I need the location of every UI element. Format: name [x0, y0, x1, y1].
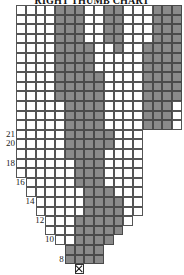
- filled-cell: [75, 53, 85, 63]
- filled-cell: [65, 5, 75, 15]
- filled-cell: [65, 43, 75, 53]
- filled-cell: [162, 72, 172, 82]
- filled-cell: [94, 226, 104, 236]
- empty-cell: [45, 139, 55, 149]
- empty-cell: [36, 63, 46, 73]
- empty-cell: [123, 43, 133, 53]
- empty-cell: [123, 216, 133, 226]
- filled-cell: [104, 139, 114, 149]
- filled-cell: [94, 187, 104, 197]
- empty-cell: [16, 159, 26, 169]
- empty-cell: [133, 187, 143, 197]
- filled-cell: [55, 24, 65, 34]
- filled-cell: [114, 24, 124, 34]
- empty-cell: [55, 216, 65, 226]
- grid-row: [16, 34, 182, 44]
- filled-cell: [84, 72, 94, 82]
- grid-row: [36, 207, 143, 217]
- filled-cell: [94, 120, 104, 130]
- grid-row: [16, 82, 182, 92]
- filled-cell: [84, 255, 94, 265]
- filled-cell: [104, 15, 114, 25]
- filled-cell: [94, 82, 104, 92]
- empty-cell: [16, 139, 26, 149]
- grid-row: [16, 91, 182, 101]
- empty-cell: [65, 216, 75, 226]
- empty-cell: [36, 15, 46, 25]
- filled-cell: [153, 24, 163, 34]
- empty-cell: [26, 120, 36, 130]
- grid-row: [16, 159, 143, 169]
- filled-cell: [153, 101, 163, 111]
- empty-cell: [36, 91, 46, 101]
- filled-cell: [162, 5, 172, 15]
- filled-cell: [153, 82, 163, 92]
- empty-cell: [65, 235, 75, 245]
- filled-cell: [84, 187, 94, 197]
- filled-cell: [114, 207, 124, 217]
- grid-row: [16, 24, 182, 34]
- filled-cell: [65, 15, 75, 25]
- empty-cell: [26, 130, 36, 140]
- empty-cell: [104, 43, 114, 53]
- empty-cell: [133, 34, 143, 44]
- empty-cell: [133, 207, 143, 217]
- filled-cell: [75, 24, 85, 34]
- empty-cell: [45, 15, 55, 25]
- filled-cell: [104, 130, 114, 140]
- grid-row: [16, 168, 143, 178]
- filled-cell: [153, 53, 163, 63]
- filled-cell: [153, 72, 163, 82]
- empty-cell: [123, 139, 133, 149]
- filled-cell: [65, 120, 75, 130]
- filled-cell: [162, 15, 172, 25]
- filled-cell: [65, 111, 75, 121]
- empty-cell: [45, 34, 55, 44]
- filled-cell: [172, 43, 182, 53]
- empty-cell: [45, 197, 55, 207]
- empty-cell: [55, 139, 65, 149]
- empty-cell: [36, 82, 46, 92]
- filled-cell: [84, 235, 94, 245]
- empty-cell: [94, 15, 104, 25]
- filled-cell: [75, 178, 85, 188]
- filled-cell: [84, 63, 94, 73]
- empty-cell: [26, 15, 36, 25]
- filled-cell: [162, 91, 172, 101]
- empty-cell: [133, 82, 143, 92]
- empty-cell: [133, 72, 143, 82]
- empty-cell: [133, 178, 143, 188]
- empty-cell: [55, 187, 65, 197]
- empty-cell: [16, 34, 26, 44]
- empty-cell: [114, 53, 124, 63]
- row-number-label: 8: [50, 254, 64, 264]
- empty-cell: [16, 24, 26, 34]
- empty-cell: [114, 63, 124, 73]
- empty-cell: [114, 120, 124, 130]
- empty-cell: [26, 82, 36, 92]
- empty-cell: [104, 72, 114, 82]
- empty-cell: [55, 130, 65, 140]
- empty-cell: [16, 130, 26, 140]
- empty-cell: [114, 187, 124, 197]
- row-number-label: 21: [1, 129, 15, 139]
- filled-cell: [162, 101, 172, 111]
- empty-cell: [104, 111, 114, 121]
- empty-cell: [36, 197, 46, 207]
- empty-cell: [26, 24, 36, 34]
- filled-cell: [65, 255, 75, 265]
- empty-cell: [123, 149, 133, 159]
- filled-cell: [114, 216, 124, 226]
- filled-cell: [143, 101, 153, 111]
- empty-cell: [26, 63, 36, 73]
- empty-cell: [94, 24, 104, 34]
- filled-cell: [153, 34, 163, 44]
- empty-cell: [16, 149, 26, 159]
- empty-cell: [114, 101, 124, 111]
- empty-cell: [26, 149, 36, 159]
- filled-cell: [65, 101, 75, 111]
- row-number-label: 18: [1, 158, 15, 168]
- empty-cell: [55, 120, 65, 130]
- empty-cell: [133, 101, 143, 111]
- empty-cell: [26, 72, 36, 82]
